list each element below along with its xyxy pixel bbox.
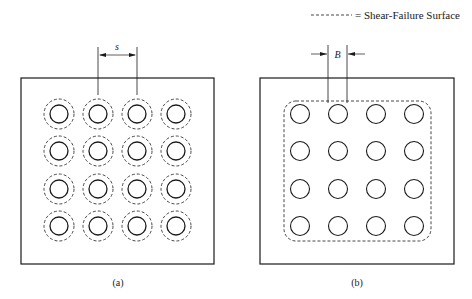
pile [50,217,68,235]
pile-group-diagram: = Shear-Failure Surface s (a) B (b) [0,0,472,299]
individual-failure-surface [83,99,113,129]
individual-failure-surface [161,99,191,129]
pile [89,142,107,160]
individual-failure-surface [161,136,191,166]
pile [291,180,310,199]
pile [167,217,185,235]
pile [329,105,348,124]
pile [167,105,185,123]
pile [329,142,348,161]
individual-failure-surface [161,174,191,204]
pile [329,217,348,236]
arrowhead-left-icon [99,53,106,57]
pile [128,217,146,235]
pile [291,105,310,124]
pile-cap-outline-b [260,78,454,264]
arrowhead-left-icon [348,52,355,56]
pile [89,180,107,198]
pile-cap-outline-a [21,78,214,264]
pile [128,142,146,160]
pile [367,180,386,199]
pile-grid-a [44,99,191,241]
pile [367,105,386,124]
pile [89,217,107,235]
individual-failure-surface [122,136,152,166]
panel-b: B (b) [260,45,454,289]
pile [89,105,107,123]
pile [50,180,68,198]
individual-failure-surface [122,99,152,129]
pile [367,142,386,161]
individual-failure-surface [44,136,74,166]
dimension-label-s: s [115,41,119,52]
legend: = Shear-Failure Surface [311,9,460,21]
individual-failure-surface [44,99,74,129]
pile [167,142,185,160]
pile [291,217,310,236]
individual-failure-surface [83,174,113,204]
individual-failure-surface [44,174,74,204]
individual-failure-surface [83,136,113,166]
pile [405,180,424,199]
individual-failure-surface [122,174,152,204]
pile [367,217,386,236]
pile-grid-b [291,105,424,236]
individual-failure-surface [44,211,74,241]
individual-failure-surface [122,211,152,241]
individual-failure-surface [161,211,191,241]
pile [167,180,185,198]
dimension-label-b: B [334,49,340,60]
pile [50,142,68,160]
pile [128,180,146,198]
pile [405,217,424,236]
caption-a: (a) [112,277,123,289]
pile [329,180,348,199]
individual-failure-surface [83,211,113,241]
caption-b: (b) [351,277,363,289]
pile [291,142,310,161]
arrowhead-right-icon [129,53,136,57]
pile [128,105,146,123]
arrowhead-right-icon [320,52,327,56]
pile [405,142,424,161]
panel-a: s (a) [21,41,214,289]
pile [405,105,424,124]
legend-label: = Shear-Failure Surface [355,9,460,21]
pile [50,105,68,123]
